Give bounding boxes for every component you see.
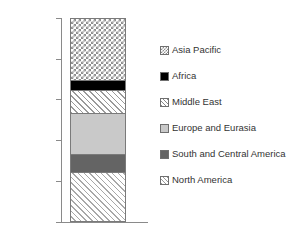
legend-label-asia-pacific: Asia Pacific	[172, 45, 221, 55]
segment-divider-3	[71, 113, 125, 114]
legend-swatch-diagonal-hatch-light-icon	[160, 176, 169, 185]
bar-segment-asia-pacific[interactable]	[71, 19, 125, 80]
stacked-bar-chart: 0% 20% 40% 60% 80% 100%	[0, 0, 308, 246]
legend-label-north-america: North America	[172, 175, 232, 185]
legend-label-south-and-central-america: South and Central America	[172, 149, 286, 159]
segment-divider-1	[71, 80, 125, 81]
bar-segment-north-america[interactable]	[71, 172, 125, 222]
legend-label-middle-east: Middle East	[172, 97, 222, 107]
bar-segment-europe-and-eurasia[interactable]	[71, 113, 125, 154]
legend-swatch-checkerboard-icon	[160, 46, 169, 55]
y-tick-mark-0	[56, 222, 61, 223]
legend-swatch-diagonal-hatch-icon	[160, 98, 169, 107]
legend-label-africa: Africa	[172, 71, 196, 81]
segment-divider-5	[71, 172, 125, 173]
y-tick-mark-40	[56, 140, 61, 141]
legend-item-africa[interactable]: Africa	[160, 70, 196, 82]
y-tick-mark-20	[56, 181, 61, 182]
y-tick-mark-100	[56, 18, 61, 19]
bar-segment-middle-east[interactable]	[71, 90, 125, 113]
legend-item-europe-and-eurasia[interactable]: Europe and Eurasia	[160, 122, 256, 134]
legend-swatch-solid-light-gray-icon	[160, 124, 169, 133]
bar-segment-africa[interactable]	[71, 80, 125, 90]
bar-segment-south-and-central-america[interactable]	[71, 154, 125, 172]
x-axis-line	[61, 222, 148, 223]
legend-item-south-and-central-america[interactable]: South and Central America	[160, 148, 286, 160]
y-tick-mark-80	[56, 59, 61, 60]
segment-divider-4	[71, 154, 125, 155]
legend-swatch-solid-black-icon	[160, 72, 169, 81]
segment-divider-2	[71, 90, 125, 91]
y-axis-line	[61, 18, 62, 222]
plot-area: 0% 20% 40% 60% 80% 100%	[0, 0, 160, 246]
y-tick-mark-60	[56, 99, 61, 100]
legend-label-europe-and-eurasia: Europe and Eurasia	[172, 123, 256, 133]
legend-item-asia-pacific[interactable]: Asia Pacific	[160, 44, 221, 56]
legend-item-north-america[interactable]: North America	[160, 174, 232, 186]
legend-swatch-solid-dark-gray-icon	[160, 150, 169, 159]
legend-item-middle-east[interactable]: Middle East	[160, 96, 222, 108]
stacked-bar[interactable]	[70, 18, 126, 222]
